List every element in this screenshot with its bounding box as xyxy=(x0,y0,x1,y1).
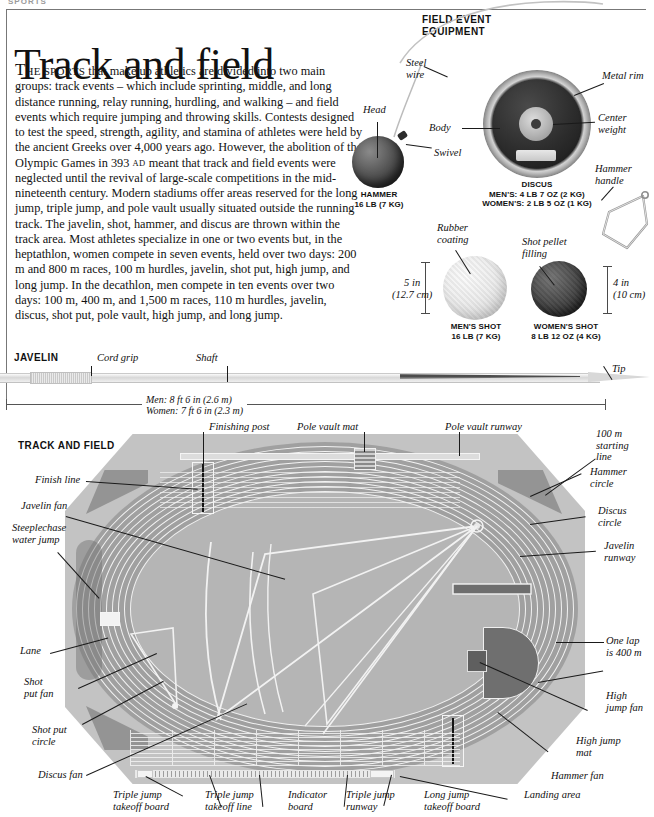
label-steel-wire: Steel wire xyxy=(406,57,426,80)
encyclopedia-page: SPORTS Track and field THE SPORTS that m… xyxy=(0,0,654,817)
high-jump-mat xyxy=(467,650,487,672)
label-triple-jump-takeoff-board: Triple jump takeoff board xyxy=(113,789,169,812)
javelin-heading: JAVELIN xyxy=(14,352,58,364)
label-javelin-fan: Javelin fan xyxy=(21,500,67,512)
leader-swivel xyxy=(406,144,432,149)
mens-shot-weight: 16 LB (7 KG) xyxy=(437,332,515,342)
label-shot-pellet-filling: Shot pellet filling xyxy=(522,236,567,259)
discus-name: DISCUS xyxy=(466,180,608,190)
label-long-jump-takeoff-board: Long jump takeoff board xyxy=(424,789,480,812)
leader-body xyxy=(462,128,500,129)
intro-paragraph: THE SPORTS that make up athletics are di… xyxy=(15,64,363,323)
label-center-weight: Center weight xyxy=(598,112,627,135)
discus-brand-plate xyxy=(516,150,556,161)
intro-smallcaps: HE SPORTS xyxy=(25,65,85,77)
bottom-straight-hatch xyxy=(130,730,460,766)
label-rubber-coating: Rubber coating xyxy=(437,222,469,245)
label-mens-shot-dimension: 5 in (12.7 cm) xyxy=(392,277,432,300)
intro-body-2: meant that track and field events were n… xyxy=(15,156,357,323)
javelin-dimension-women: Women: 7 ft 6 in (2.3 m) xyxy=(146,405,243,416)
label-one-lap: One lap is 400 m xyxy=(606,635,642,658)
leader-pole-vault-runway xyxy=(459,432,460,456)
label-tip: Tip xyxy=(612,363,625,375)
label-metal-rim: Metal rim xyxy=(602,70,644,82)
label-finish-line: Finish line xyxy=(35,474,80,486)
javelin-cord-grip xyxy=(30,372,92,384)
hammer-spec: HAMMER 16 LB (7 KG) xyxy=(342,190,416,209)
mens-shot-name: MEN'S SHOT xyxy=(437,322,515,332)
label-triple-jump-takeoff-line: Triple jump takeoff line xyxy=(205,789,254,812)
label-javelin-runway: Javelin runway xyxy=(604,540,636,563)
label-cord-grip: Cord grip xyxy=(97,352,138,364)
top-straight-hatch xyxy=(160,468,460,508)
label-discus-circle: Discus circle xyxy=(598,505,627,528)
running-head: SPORTS xyxy=(8,0,47,4)
womens-shot-spec: WOMEN'S SHOT 8 LB 12 OZ (4 KG) xyxy=(520,322,612,341)
label-lane: Lane xyxy=(20,645,41,657)
label-steeplechase-water-jump: Steeplechase water jump xyxy=(12,522,66,545)
leader-pole-vault-mat xyxy=(364,432,365,452)
leader-shaft xyxy=(227,366,228,382)
label-hammer-fan: Hammer fan xyxy=(551,770,604,782)
leader-finishing-post xyxy=(203,432,204,466)
label-indicator-board: Indicator board xyxy=(288,789,327,812)
label-head: Head xyxy=(363,104,386,116)
label-swivel: Swivel xyxy=(434,147,461,159)
mens-shot-ball xyxy=(443,256,507,320)
label-body: Body xyxy=(429,122,451,134)
intro-body-1: that make up athletics are divided into … xyxy=(15,64,362,170)
label-high-jump-mat: High jump mat xyxy=(576,735,621,758)
javelin-dimension-men: Men: 8 ft 6 in (2.6 m) xyxy=(146,394,243,405)
javelin-dimension-line xyxy=(6,404,606,405)
label-discus-fan: Discus fan xyxy=(38,769,83,781)
discus-center-weight xyxy=(519,107,553,141)
label-shot-put-fan: Shot put fan xyxy=(24,676,53,699)
drop-cap: T xyxy=(15,60,25,79)
discus-mens-weight: MEN'S: 4 LB 7 OZ (2 KG) xyxy=(466,190,608,200)
discus-womens-weight: WOMEN'S: 2 LB 5 OZ (1 KG) xyxy=(466,199,608,209)
label-pole-vault-mat: Pole vault mat xyxy=(297,421,358,433)
intro-era-ad: AD xyxy=(133,158,146,168)
label-shot-put-circle: Shot put circle xyxy=(32,724,67,747)
mens-shot-spec: MEN'S SHOT 16 LB (7 KG) xyxy=(437,322,515,341)
label-landing-area: Landing area xyxy=(524,789,581,801)
hammer-head-ball xyxy=(352,136,404,188)
hammer-name: HAMMER xyxy=(342,190,416,200)
label-shaft: Shaft xyxy=(196,352,218,364)
javelin-dimensions: Men: 8 ft 6 in (2.6 m) Women: 7 ft 6 in … xyxy=(142,394,247,416)
label-womens-shot-dimension: 4 in (10 cm) xyxy=(613,277,645,300)
womens-shot-ball xyxy=(531,261,587,317)
label-pole-vault-runway: Pole vault runway xyxy=(445,421,522,433)
womens-shot-name: WOMEN'S SHOT xyxy=(520,322,612,332)
javelin-illustration xyxy=(0,368,640,386)
left-rule xyxy=(6,9,7,409)
womens-shot-dimension-bar xyxy=(607,266,608,314)
leader-one-lap xyxy=(556,642,604,643)
triple-jump-runway-strip xyxy=(135,770,395,778)
label-100m-starting-line: 100 m starting line xyxy=(596,428,629,463)
label-finishing-post: Finishing post xyxy=(209,421,269,433)
label-high-jump-fan: High jump fan xyxy=(606,690,643,713)
leader-head xyxy=(377,122,378,158)
label-hammer-circle: Hammer circle xyxy=(590,466,627,489)
label-triple-jump-runway: Triple jump runway xyxy=(346,789,395,812)
womens-shot-weight: 8 LB 12 OZ (4 KG) xyxy=(520,332,612,342)
discus-spec: DISCUS MEN'S: 4 LB 7 OZ (2 KG) WOMEN'S: … xyxy=(466,180,608,209)
leader-cord-grip xyxy=(91,366,92,376)
hammer-weight: 16 LB (7 KG) xyxy=(342,200,416,210)
